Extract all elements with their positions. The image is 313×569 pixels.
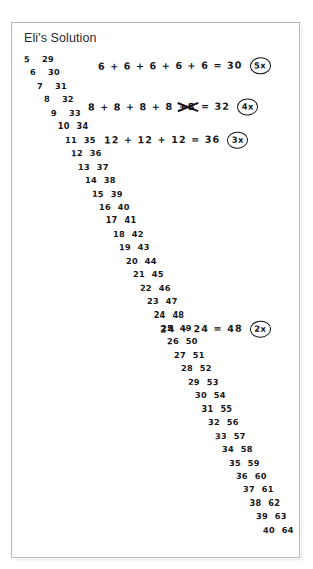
pair-left-value: 39 [256,512,268,521]
pair-left-value: 29 [188,378,200,387]
pair-right-value: 50 [186,337,198,346]
pair-left-value: 28 [181,364,193,373]
equation-row: 6 + 6 + 6 + 6 + 6 = 305x [98,58,271,74]
pair-right-value: 58 [241,445,253,454]
struck-out-term: +8 [178,101,197,112]
number-pair-row: 2650 [167,337,198,346]
number-pair-row: 1741 [106,216,137,225]
pair-left-value: 13 [78,163,90,172]
number-pair-row: 2852 [181,364,212,373]
pair-right-value: 47 [166,297,178,306]
pair-right-value: 46 [159,284,171,293]
equation-expression: 6 + 6 + 6 + 6 + 6 [98,60,209,72]
equation-row: 24 + 24 = 482x [160,322,271,337]
pair-right-value: 57 [234,431,246,440]
pair-right-value: 60 [255,472,267,481]
pair-right-value: 63 [275,512,287,521]
pair-left-value: 8 [44,95,55,104]
pair-right-value: 43 [138,243,150,252]
number-pair-row: 3357 [215,431,246,440]
pair-left-value: 20 [126,257,138,266]
number-pair-row: 3559 [229,458,260,467]
number-pair-row: 3256 [208,418,239,427]
number-pair-row: 731 [37,82,67,91]
number-pair-row: 933 [51,109,81,118]
pair-left-value: 35 [229,458,241,467]
number-pair-row: 1135 [65,136,96,145]
pair-left-value: 6 [30,68,41,77]
pair-left-value: 37 [243,485,255,494]
pair-right-value: 35 [83,136,95,145]
pair-right-value: 38 [104,176,116,185]
number-pair-staircase-list: 5296307318329331034113512361337143815391… [0,0,313,569]
pair-left-value: 18 [113,230,125,239]
number-pair-row: 1236 [71,149,102,158]
number-pair-row: 3761 [243,485,274,494]
pair-left-value: 10 [58,122,70,131]
number-pair-row: 2145 [133,270,164,279]
equation-result: = 32 [201,101,230,112]
pair-right-value: 36 [90,149,102,158]
number-pair-row: 529 [23,55,53,64]
pair-left-value: 31 [202,405,214,414]
circled-multiplier-annotation: 2x [250,322,271,337]
number-pair-row: 2953 [188,378,219,387]
pair-left-value: 22 [140,283,152,292]
number-pair-row: 3155 [202,405,233,414]
multiplier-label: 3x [232,134,244,144]
number-pair-row: 2044 [126,257,157,266]
pair-left-value: 40 [263,526,275,535]
number-pair-row: 3963 [256,512,287,521]
number-pair-row: 1842 [113,230,144,239]
multiplier-label: 4x [242,101,254,111]
number-pair-row: 3660 [236,472,267,481]
equation-row: 8 + 8 + 8 + 8 +8 = 324x [88,99,258,115]
pair-left-value: 21 [133,270,145,279]
pair-left-value: 7 [37,82,48,91]
pair-left-value: 34 [222,445,234,454]
number-pair-row: 3862 [250,499,281,508]
pair-right-value: 61 [261,485,273,494]
number-pair-row: 4064 [263,526,294,535]
pair-right-value: 30 [48,68,60,77]
pair-left-value: 24 [154,311,166,320]
number-pair-row: 1034 [58,122,89,131]
equation-row: 12 + 12 + 12 = 363x [104,133,248,148]
pair-left-value: 30 [195,391,207,400]
pair-right-value: 64 [282,526,294,535]
equation-expression: 8 + 8 + 8 + 8 [88,101,173,113]
pair-left-value: 23 [147,297,159,306]
pair-right-value: 41 [124,216,136,225]
equation-result: = 30 [213,60,242,71]
pair-left-value: 26 [167,337,179,346]
pair-left-value: 15 [92,189,104,198]
circled-multiplier-annotation: 4x [237,99,258,114]
pair-left-value: 17 [106,216,118,225]
number-pair-row: 1438 [85,176,116,185]
pair-left-value: 36 [236,472,248,481]
pair-left-value: 16 [99,203,111,212]
pair-right-value: 34 [77,122,89,131]
pair-left-value: 19 [119,243,131,252]
number-pair-row: 1337 [78,163,109,172]
pair-right-value: 37 [97,163,109,172]
multiplier-label: 2x [254,323,266,333]
pair-right-value: 44 [145,257,157,266]
number-pair-row: 630 [30,68,60,77]
pair-left-value: 38 [250,499,262,508]
pair-left-value: 27 [174,351,186,360]
number-pair-row: 832 [44,95,74,104]
number-pair-row: 1640 [99,203,130,212]
pair-left-value: 11 [65,136,77,145]
pair-right-value: 59 [248,459,260,468]
pair-right-value: 56 [227,418,239,427]
pair-right-value: 40 [118,203,130,212]
pair-left-value: 32 [208,418,220,427]
equation-result: = 36 [191,134,220,145]
pair-right-value: 33 [69,109,81,118]
number-pair-row: 2448 [154,311,185,320]
pair-right-value: 48 [172,311,184,320]
pair-right-value: 62 [268,499,280,508]
pair-right-value: 52 [200,364,212,373]
pair-right-value: 45 [152,270,164,279]
